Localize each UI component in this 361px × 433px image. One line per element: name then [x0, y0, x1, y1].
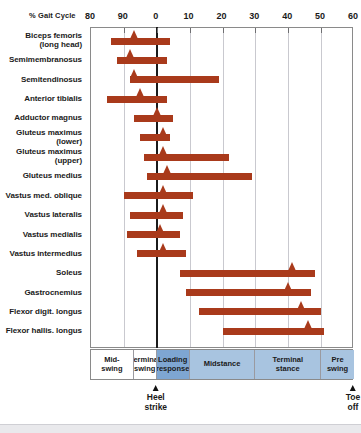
muscle-label: Anterior tibialis [24, 94, 82, 103]
event-marker-heel: Heelstrike [144, 385, 167, 412]
activity-peak-marker [130, 69, 138, 78]
muscle-label: Gluteus maximus(upper) [16, 147, 82, 165]
plot-area [90, 27, 353, 348]
event-label-line1: Heel [144, 392, 167, 402]
activity-peak-marker [288, 262, 296, 271]
muscle-label: Gastrocnemius [24, 288, 82, 297]
activity-peak-marker [159, 243, 167, 252]
tickmark-30 [255, 28, 256, 33]
muscle-label: Semimembranosus [9, 55, 82, 64]
activity-bar [127, 231, 180, 238]
x-axis-caption: % Gait Cycle [29, 11, 76, 20]
muscle-label: Flexor hallis. longus [6, 326, 82, 335]
gait-phase-midstance[interactable]: Midstance [190, 350, 256, 379]
activity-peak-marker [126, 49, 134, 58]
activity-bar [130, 212, 183, 219]
gait-phase-terminal-swing[interactable]: Terminalswing [134, 350, 157, 379]
activity-peak-marker [136, 88, 144, 97]
x-tick-label-30: 30 [249, 11, 259, 21]
event-marker-toe: Toeoff [346, 385, 360, 412]
gait-phase-strip: Mid-swingTerminalswingLoadingresponseMid… [90, 349, 353, 380]
page-footer-strip [0, 424, 361, 433]
muscle-label: Vastus medialis [23, 230, 82, 239]
activity-peak-marker [159, 204, 167, 213]
muscle-label: Flexor digit. longus [9, 307, 82, 316]
x-tick-label-20: 20 [216, 11, 226, 21]
activity-peak-marker [159, 127, 167, 136]
muscle-label: Vastus intermedius [10, 249, 82, 258]
x-tick-label-10: 10 [184, 11, 194, 21]
muscle-label: Gluteus maximus(lower) [16, 128, 82, 146]
x-tick-label-80: 80 [85, 11, 95, 21]
gait-phase-terminal-stance[interactable]: Terminalstance [255, 350, 321, 379]
muscle-label-column: Biceps femoris(long head)Semimembranosus… [0, 27, 86, 348]
muscle-label: Vastus med. oblique [6, 191, 82, 200]
gridline-30 [255, 28, 256, 347]
activity-bar [186, 289, 311, 296]
heel-strike-zero-line [156, 27, 158, 348]
activity-peak-marker [163, 165, 171, 174]
activity-peak-marker [130, 30, 138, 39]
muscle-label: Gluteus medius [23, 171, 82, 180]
activity-peak-marker [159, 185, 167, 194]
activity-bar [130, 76, 219, 83]
x-tick-label-40: 40 [282, 11, 292, 21]
event-label-line2: off [346, 402, 360, 412]
gridline-20 [223, 28, 224, 347]
tickmark-0 [157, 28, 158, 33]
up-arrow-icon [350, 385, 356, 391]
gait-phase-mid-swing[interactable]: Mid-swing [91, 350, 134, 379]
muscle-label: Semitendinosus [21, 75, 82, 84]
x-tick-label-90: 90 [118, 11, 128, 21]
activity-bar [117, 57, 166, 64]
event-label-line1: Toe [346, 392, 360, 402]
activity-peak-marker [153, 107, 161, 116]
activity-peak-marker [284, 282, 292, 291]
tickmark-90 [124, 28, 125, 33]
gridline-50 [321, 28, 322, 347]
activity-peak-marker [304, 320, 312, 329]
tickmark-40 [288, 28, 289, 33]
activity-bar [144, 154, 229, 161]
gait-phase-loading-response[interactable]: Loadingresponse [157, 350, 190, 379]
activity-peak-marker [156, 224, 164, 233]
activity-bar [111, 38, 170, 45]
x-tick-label-0: 0 [153, 11, 158, 21]
muscle-label: Vastus lateralis [25, 210, 82, 219]
event-label-line2: strike [144, 402, 167, 412]
x-tick-label-60: 60 [348, 11, 358, 21]
muscle-label: Adductor magnus [14, 113, 82, 122]
x-tick-label-50: 50 [315, 11, 325, 21]
tickmark-20 [223, 28, 224, 33]
tickmark-10 [190, 28, 191, 33]
gait-phase-pre-swing[interactable]: Preswing [321, 350, 354, 379]
activity-peak-marker [297, 301, 305, 310]
muscle-label: Soleus [56, 268, 82, 277]
activity-peak-marker [159, 146, 167, 155]
gridline-40 [288, 28, 289, 347]
muscle-label: Biceps femoris(long head) [25, 31, 82, 49]
tickmark-50 [321, 28, 322, 33]
up-arrow-icon [153, 385, 159, 391]
gridline-90 [124, 28, 125, 347]
